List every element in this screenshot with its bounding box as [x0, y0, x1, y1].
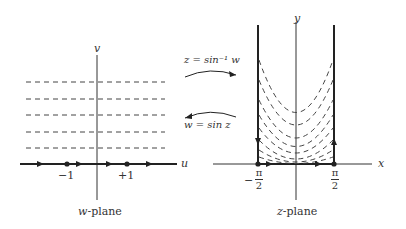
forward-arrowhead-icon [229, 71, 236, 77]
tick-minus-pi-half: π 2 [255, 168, 263, 191]
inverse-mapping-label: w = sin z [184, 120, 231, 130]
tick-minus-one: −1 [58, 170, 74, 181]
tick-minus-sign: − [244, 175, 253, 186]
forward-mapping-label: z = sin⁻¹ w [184, 55, 240, 65]
point-minus-one [64, 161, 69, 166]
mapping-arrows [185, 71, 236, 118]
x-axis-label: x [378, 158, 384, 169]
y-axis-label: y [294, 13, 300, 24]
v-axis-label: v [94, 43, 100, 54]
z-plane-caption: z-plane [277, 206, 317, 217]
u-axis-label: u [181, 158, 188, 169]
point-minus-pi-half [255, 161, 260, 166]
w-plane-caption: w-plane [78, 206, 122, 217]
tick-plus-one: +1 [118, 170, 134, 181]
z-plane-graphic [213, 22, 372, 200]
inverse-mapping-arc [185, 112, 236, 118]
w-plane-dashed-lines [26, 82, 165, 148]
point-plus-one [124, 161, 129, 166]
tick-pi-half: π 2 [331, 168, 339, 191]
point-pi-half [331, 161, 336, 166]
w-plane-graphic [20, 55, 177, 200]
forward-mapping-arc [185, 71, 236, 77]
diagram-canvas [0, 0, 406, 229]
